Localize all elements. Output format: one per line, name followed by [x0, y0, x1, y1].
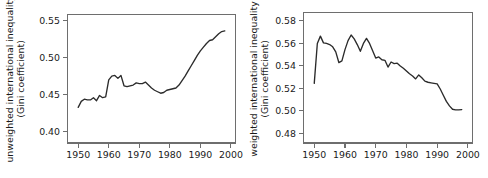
x-tick-label: 1990: [425, 149, 449, 160]
x-axis-ticks-weighted: 195019601970198019902000: [302, 143, 480, 160]
y-axis-title-unweighted: unweighted international inequality (Gin…: [4, 0, 26, 163]
figure-two-panel-gini-charts: unweighted international inequality (Gin…: [0, 0, 488, 178]
x-tick-label: 2000: [219, 149, 243, 160]
y-axis-title-line1: unweighted international inequality: [4, 0, 15, 163]
x-tick-label: 1990: [188, 149, 212, 160]
x-axis-ticks-unweighted: 195019601970198019902000: [66, 143, 243, 160]
y-axis-title-line2: (Gini coefficient): [15, 40, 26, 118]
y-tick-label: 0.52: [275, 83, 296, 94]
y-tick-label: 0.54: [275, 60, 296, 71]
x-tick-label: 1960: [97, 149, 121, 160]
x-tick-label: 1950: [66, 149, 90, 160]
plot-frame-weighted: [304, 13, 473, 144]
y-axis-title-line1: weighted international inequality: [248, 1, 259, 157]
y-axis-title-weighted: weighted international inequality (Gini …: [248, 1, 270, 157]
x-tick-label: 1980: [158, 149, 182, 160]
y-tick-label: 0.50: [275, 105, 296, 116]
y-tick-label: 0.56: [275, 38, 296, 49]
chart-svg-unweighted: unweighted international inequality (Gin…: [0, 0, 244, 178]
data-series-weighted: [314, 35, 462, 110]
data-series-unweighted: [78, 31, 225, 108]
x-tick-label: 1960: [333, 149, 357, 160]
y-tick-label: 0.50: [39, 52, 60, 63]
y-tick-label: 0.58: [275, 15, 296, 26]
y-tick-label: 0.55: [39, 15, 60, 26]
y-tick-label: 0.48: [275, 128, 296, 139]
x-tick-label: 1950: [302, 149, 326, 160]
chart-svg-weighted: weighted international inequality (Gini …: [244, 0, 488, 178]
y-axis-title-line2: (Gini coefficient): [259, 40, 270, 118]
chart-panel-weighted: weighted international inequality (Gini …: [244, 0, 488, 178]
x-tick-label: 1970: [364, 149, 388, 160]
y-axis-ticks-weighted: 0.480.500.520.540.560.58: [275, 15, 303, 138]
y-tick-label: 0.40: [39, 126, 60, 137]
chart-panel-unweighted: unweighted international inequality (Gin…: [0, 0, 244, 178]
x-tick-label: 1980: [395, 149, 419, 160]
y-tick-label: 0.45: [39, 89, 60, 100]
x-tick-label: 1970: [127, 149, 151, 160]
x-tick-label: 2000: [456, 149, 480, 160]
y-axis-ticks-unweighted: 0.400.450.500.55: [39, 15, 67, 137]
plot-frame-unweighted: [68, 15, 236, 144]
